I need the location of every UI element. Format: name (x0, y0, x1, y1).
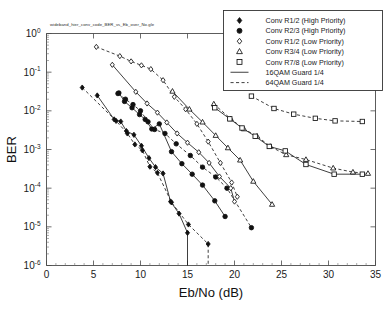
open-square-marker (332, 172, 336, 176)
open-square-marker (253, 134, 257, 138)
filled-circle-marker (180, 161, 184, 165)
open-diamond-marker (139, 63, 143, 68)
filled-diamond-marker (148, 164, 152, 169)
filled-circle-marker (163, 131, 167, 135)
filled-circle-marker (131, 102, 135, 106)
filled-circle-marker (200, 165, 204, 169)
series-line-9 (251, 96, 362, 121)
filled-circle-marker (223, 214, 227, 218)
x-tick-label: 20 (229, 269, 241, 280)
x-tick-label: 30 (323, 269, 335, 280)
open-diamond-marker (129, 59, 133, 64)
series-line-2 (119, 93, 225, 217)
legend-label: Conv R3/4 (Low Priority) (266, 47, 344, 56)
y-tick-label: 100 (26, 27, 41, 40)
open-square-marker (292, 112, 296, 116)
legend-group: Conv R1/2 (High Priority)Conv R2/3 (High… (224, 11, 383, 91)
series-line-7 (214, 104, 368, 173)
open-square-marker (283, 149, 287, 153)
series-line-8 (215, 108, 363, 174)
legend-label: 64QAM Guard 1/4 (266, 78, 324, 87)
open-diamond-marker (235, 194, 239, 199)
open-diamond-marker (232, 199, 236, 204)
legend-label: Conv R7/8 (Low Priority) (266, 58, 344, 67)
y-tick-labels-group: 10010-110-210-310-410-510-6 (24, 27, 41, 272)
filled-diamond-marker (161, 171, 165, 176)
open-square-marker (267, 144, 271, 148)
filled-diamond-marker (155, 170, 159, 175)
filled-circle-marker (174, 142, 178, 146)
y-tick-label: 10-2 (24, 104, 41, 117)
filled-diamond-marker (185, 230, 189, 235)
x-tick-label: 15 (182, 269, 194, 280)
open-square-marker (249, 94, 253, 98)
y-tick-label: 10-3 (24, 143, 41, 156)
chart-canvas: wideband_hier_conv_code_BER_vs_Eb_over_N… (0, 0, 390, 309)
filled-circle-marker (157, 122, 161, 126)
chart-caption-group: wideband_hier_conv_code_BER_vs_Eb_over_N… (50, 22, 155, 27)
x-tick-label: 10 (135, 269, 147, 280)
y-tick-label: 10-4 (24, 181, 41, 194)
open-triangle-marker (331, 165, 336, 170)
open-square-marker (313, 116, 317, 120)
filled-circle-marker (213, 199, 217, 203)
open-square-marker (360, 172, 364, 176)
y-tick-label: 10-6 (24, 259, 41, 272)
filled-circle-marker (138, 109, 142, 113)
filled-circle-marker (146, 120, 150, 124)
y-tick-label: 10-5 (24, 220, 41, 233)
open-square-marker (304, 162, 308, 166)
y-tick-label: 10-1 (24, 65, 41, 78)
filled-circle-marker (249, 225, 253, 229)
open-square-marker (213, 106, 217, 110)
filled-circle-marker (123, 97, 127, 101)
filled-diamond-marker (133, 142, 137, 147)
y-axis-title: BER (4, 136, 19, 163)
filled-circle-marker (188, 153, 192, 157)
filled-circle-marker (190, 172, 194, 176)
open-square-marker (272, 106, 276, 110)
filled-circle-marker (152, 127, 156, 131)
legend-label: Conv R1/2 (Low Priority) (266, 37, 344, 46)
x-tick-labels-group: 05101520253035 (44, 269, 382, 280)
filled-diamond-marker (140, 148, 144, 153)
x-tick-label: 35 (370, 269, 382, 280)
chart-caption: wideband_hier_conv_code_BER_vs_Eb_over_N… (50, 22, 155, 27)
open-square-marker (240, 126, 244, 130)
open-diamond-marker (118, 54, 122, 59)
series-line-0 (97, 95, 187, 265)
x-tick-label: 0 (44, 269, 50, 280)
filled-circle-marker (169, 149, 173, 153)
open-triangle-marker (251, 179, 256, 184)
filled-circle-marker (116, 91, 120, 95)
x-axis-title: Eb/No (dB) (179, 285, 243, 300)
legend-label: 16QAM Guard 1/4 (266, 68, 324, 77)
filled-circle-marker (237, 28, 242, 33)
x-tick-label: 25 (276, 269, 288, 280)
open-diamond-marker (94, 44, 98, 49)
open-diamond-marker (230, 180, 234, 185)
open-square-marker (360, 119, 364, 123)
open-square-marker (228, 117, 232, 121)
ber-chart-figure: wideband_hier_conv_code_BER_vs_Eb_over_N… (0, 0, 390, 309)
open-square-marker (333, 119, 337, 123)
x-tick-label: 5 (91, 269, 97, 280)
legend-label: Conv R2/3 (High Priority) (266, 26, 346, 35)
filled-circle-marker (200, 183, 204, 187)
open-square-marker (237, 59, 242, 64)
legend-label: Conv R1/2 (High Priority) (266, 16, 346, 25)
